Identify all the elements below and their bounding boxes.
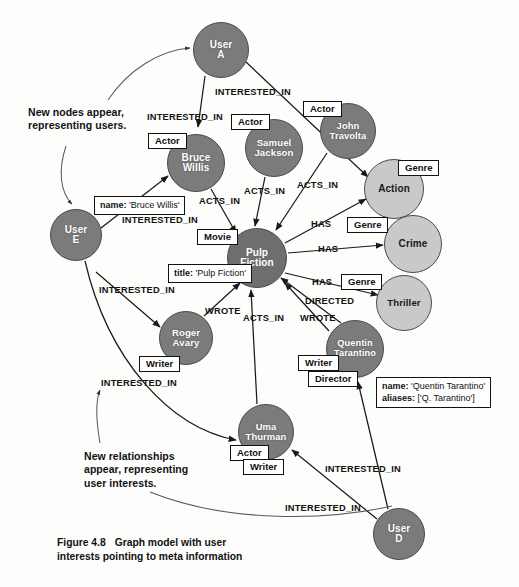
edge-umathurman-pulpfiction: [251, 290, 257, 404]
node-samuel-jackson-line1: Samuel: [254, 138, 293, 148]
edge-label-has-thriller: HAS: [312, 277, 332, 287]
node-user-d-line1: User: [388, 524, 411, 534]
node-bruce-willis-line1: Bruce: [182, 153, 211, 163]
node-user-e-line2: E: [65, 235, 88, 245]
chip-actor-bruce-willis[interactable]: Actor: [148, 133, 187, 149]
edge-usere-rogeravary: [96, 272, 160, 327]
chip-genre-crime[interactable]: Genre: [347, 217, 388, 233]
node-user-a-line1: User: [210, 40, 233, 50]
node-user-d-line2: D: [388, 534, 411, 544]
property-row: name: 'Bruce Willis': [100, 199, 179, 211]
edge-label-usera-action: INTERESTED_IN: [215, 87, 291, 97]
property-key: title:: [174, 268, 193, 278]
figure-title: Graph model with user: [115, 537, 227, 548]
property-box-bruce-willis: name: 'Bruce Willis': [94, 196, 185, 215]
property-value: ['Q. Tarantino']: [415, 393, 475, 403]
node-quentin-tarantino-line2: Tarantino: [334, 349, 376, 359]
node-crime-label: Crime: [399, 239, 428, 249]
annotation-new-nodes-line2: representing users.: [28, 119, 126, 132]
edge-label-umathurman-pulpfiction: ACTS_IN: [243, 313, 284, 323]
edge-quentintarantino-wrote-pulpfiction: [285, 283, 329, 331]
figure-caption-line2: interests pointing to meta information: [57, 550, 242, 564]
edge-label-usere-brucewillis: INTERESTED_IN: [122, 215, 198, 225]
node-uma-thurman-line1: Uma: [246, 422, 287, 432]
chip-actor-samuel-jackson[interactable]: Actor: [231, 114, 270, 130]
figure-number: Figure 4.8: [57, 537, 106, 548]
node-bruce-willis-line2: Willis: [182, 163, 211, 173]
edge-label-johntravolta-pulpfiction: ACTS_IN: [297, 180, 338, 190]
edge-label-directed: DIRECTED: [305, 296, 354, 306]
property-value: 'Bruce Willis': [127, 200, 180, 210]
leader-new-nodes-to-usera: [108, 48, 190, 100]
leader-new-nodes-to-usere: [61, 146, 72, 204]
node-user-a[interactable]: User A: [193, 22, 249, 78]
edge-label-userd-umathurman: INTERESTED_IN: [285, 503, 361, 513]
property-value: 'Pulp Fiction': [193, 268, 246, 278]
property-value: 'Quentin Tarantino': [409, 381, 486, 391]
chip-actor-john-travolta[interactable]: Actor: [303, 101, 342, 117]
edge-label-userd-quentintarantino: INTERESTED_IN: [325, 464, 401, 474]
node-roger-avary-line1: Roger: [172, 328, 200, 338]
edge-label-wrote-quentintarantino: WROTE: [300, 313, 336, 323]
node-john-travolta-line2: Travolta: [330, 131, 367, 141]
chip-director-quentin-tarantino[interactable]: Director: [308, 371, 358, 387]
edge-label-wrote-rogeravary: WROTE: [205, 306, 241, 316]
edge-label-brucewillis-pulpfiction: ACTS_IN: [199, 196, 240, 206]
node-john-travolta-line1: John: [330, 121, 367, 131]
figure-caption-line1: Figure 4.8Graph model with user: [57, 536, 242, 550]
property-key: name:: [100, 200, 127, 210]
edge-samueljackson-pulpfiction: [255, 177, 265, 226]
annotation-new-relationships: New relationships appear, representing u…: [84, 450, 188, 490]
annotation-new-relationships-line2: appear, representing: [84, 463, 188, 476]
edge-label-has-action: HAS: [311, 219, 331, 229]
figure-canvas: User A User E User D Bruce Willis Samuel…: [0, 0, 519, 587]
leader-new-rels-to-interested: [97, 390, 100, 443]
edge-label-has-crime: HAS: [318, 244, 338, 254]
annotation-new-relationships-line1: New relationships: [84, 450, 188, 463]
figure-caption: Figure 4.8Graph model with user interest…: [57, 536, 242, 564]
node-thriller[interactable]: Thriller: [376, 275, 432, 331]
annotation-new-nodes: New nodes appear, representing users.: [28, 106, 126, 133]
property-box-pulp-fiction: title: 'Pulp Fiction': [168, 264, 252, 283]
property-row: title: 'Pulp Fiction': [174, 267, 246, 279]
annotation-new-relationships-line3: user interests.: [84, 477, 188, 490]
chip-writer-roger-avary[interactable]: Writer: [139, 356, 180, 372]
edge-label-samueljackson-pulpfiction: ACTS_IN: [244, 186, 285, 196]
node-action-label: Action: [378, 184, 410, 194]
property-row: aliases: ['Q. Tarantino']: [382, 392, 485, 404]
node-user-a-line2: A: [210, 50, 233, 60]
chip-movie-pulp-fiction[interactable]: Movie: [197, 229, 238, 245]
property-key: name:: [382, 381, 409, 391]
node-quentin-tarantino-line1: Quentin: [334, 339, 376, 349]
node-roger-avary-line2: Avary: [172, 338, 200, 348]
node-user-d[interactable]: User D: [373, 508, 425, 560]
node-uma-thurman-line2: Thurman: [246, 432, 287, 442]
chip-genre-thriller[interactable]: Genre: [341, 274, 382, 290]
property-row: name: 'Quentin Tarantino': [382, 380, 485, 392]
node-samuel-jackson-line2: Jackson: [254, 148, 293, 158]
node-user-e-line1: User: [65, 225, 88, 235]
edge-label-usere-umathurman: INTERESTED_IN: [101, 378, 177, 388]
property-box-quentin-tarantino: name: 'Quentin Tarantino' aliases: ['Q. …: [376, 377, 491, 408]
annotation-new-nodes-line1: New nodes appear,: [28, 106, 126, 119]
node-pulp-fiction-line1: Pulp: [240, 248, 273, 258]
node-user-e[interactable]: User E: [50, 209, 102, 261]
node-thriller-label: Thriller: [387, 298, 420, 308]
edge-label-usere-rogeravary: INTERESTED_IN: [99, 285, 175, 295]
property-key: aliases:: [382, 393, 415, 403]
chip-writer-quentin-tarantino[interactable]: Writer: [298, 355, 339, 371]
edge-label-usera-brucewillis: INTERESTED_IN: [147, 112, 223, 122]
node-crime[interactable]: Crime: [384, 215, 442, 273]
chip-genre-action[interactable]: Genre: [398, 160, 439, 176]
chip-writer-uma-thurman[interactable]: Writer: [243, 459, 284, 475]
